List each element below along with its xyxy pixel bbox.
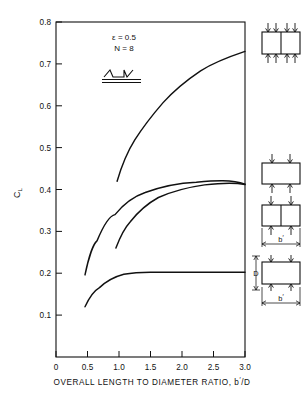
x-tick-label: 2.0 bbox=[176, 363, 188, 372]
y-tick-label: 0.2 bbox=[40, 269, 52, 278]
figure-root: 0.8 0.7 0.6 0.5 0.4 0.3 0.2 0.1 CL 0 0.5… bbox=[0, 0, 306, 398]
y-tick-label: 0.8 bbox=[40, 18, 52, 27]
schematic-width-dimension: b′ bbox=[262, 287, 300, 306]
x-axis-title-tail: /D bbox=[241, 378, 250, 387]
curve-series-0 bbox=[117, 51, 245, 181]
y-tick-label: 0.1 bbox=[40, 311, 52, 320]
y-tick-label: 0.6 bbox=[40, 102, 52, 111]
dim-label-b-prime: b′ bbox=[278, 293, 284, 303]
y-tick-label: 0.3 bbox=[40, 227, 52, 236]
y-axis-ticks bbox=[56, 22, 62, 315]
x-axis-ticks bbox=[56, 351, 245, 357]
x-tick-label: 0 bbox=[54, 363, 59, 372]
x-tick-label: 1.0 bbox=[113, 363, 125, 372]
schematic-plain-seal-with-D-and-width: D b′ bbox=[252, 255, 300, 306]
schematic-arrows-bottom bbox=[269, 284, 294, 291]
schematic-arrows-top bbox=[269, 196, 294, 205]
curve-series-2 bbox=[116, 183, 245, 248]
x-tick-label: 0.5 bbox=[82, 363, 94, 372]
schematic-single-cavity-seal bbox=[262, 154, 300, 193]
x-tick-label: 3.0 bbox=[239, 363, 251, 372]
schematic-height-dimension: D bbox=[252, 256, 260, 290]
chart-svg: 0.8 0.7 0.6 0.5 0.4 0.3 0.2 0.1 CL 0 0.5… bbox=[0, 0, 306, 398]
y-tick-label: 0.5 bbox=[40, 144, 52, 153]
x-axis-title: OVERALL LENGTH TO DIAMETER RATIO, b′/D bbox=[54, 376, 251, 387]
schematic-arrows-top bbox=[269, 255, 294, 262]
y-tick-label: 0.4 bbox=[40, 186, 52, 195]
y-axis-title-sub: L bbox=[17, 187, 23, 191]
y-tick-label: 0.7 bbox=[40, 60, 52, 69]
x-axis-tick-labels: 0 0.5 1.0 1.5 2.0 2.5 3.0 bbox=[54, 363, 251, 372]
y-axis-tick-labels: 0.8 0.7 0.6 0.5 0.4 0.3 0.2 0.1 bbox=[40, 18, 52, 320]
schematic-four-pad-two-cavity-seal bbox=[262, 23, 300, 63]
dim-label-b-prime: b′ bbox=[278, 234, 284, 244]
svg-text:CL: CL bbox=[12, 187, 23, 198]
schematic-arrows-bottom bbox=[270, 184, 293, 193]
x-axis-title-main: OVERALL LENGTH TO DIAMETER RATIO, b bbox=[54, 378, 240, 387]
schematic-arrows-bottom bbox=[269, 226, 294, 235]
schematic-arrows-bottom bbox=[266, 54, 298, 63]
data-curves bbox=[85, 51, 245, 306]
schematic-arrows-top bbox=[266, 23, 298, 32]
y-axis-title: CL bbox=[12, 187, 23, 198]
schematic-arrows-top bbox=[270, 154, 293, 163]
schematic-two-cavity-seal-with-width: b′ bbox=[262, 196, 300, 247]
schematic-width-dimension: b′ bbox=[262, 228, 300, 247]
x-tick-label: 1.5 bbox=[145, 363, 157, 372]
seal-profile-sketch bbox=[102, 70, 141, 83]
annotation-n: N = 8 bbox=[114, 44, 134, 53]
dim-label-D: D bbox=[253, 269, 258, 278]
curve-series-3 bbox=[85, 272, 245, 307]
x-tick-label: 2.5 bbox=[208, 363, 220, 372]
annotation-block: ε = 0.5 N = 8 bbox=[112, 33, 136, 53]
annotation-epsilon: ε = 0.5 bbox=[112, 33, 136, 42]
